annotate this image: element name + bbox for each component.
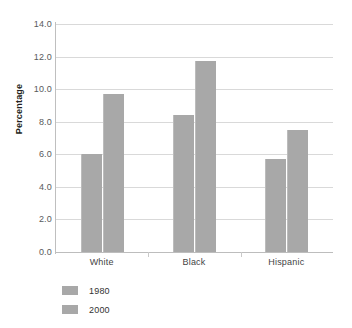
bar-white-2000 [103,94,124,252]
legend-item-1980[interactable]: 1980 [62,281,110,300]
bar-white-1980 [81,154,102,252]
y-tick-label: 0.0 [4,247,52,257]
bar-black-2000 [195,61,216,252]
bar-hispanic-2000 [287,130,308,252]
legend-swatch-icon [62,286,78,295]
plot-area [56,24,333,252]
y-tick-label: 8.0 [4,117,52,127]
gridline [56,252,333,253]
y-tick-label: 10.0 [4,84,52,94]
legend-swatch-icon [62,305,78,314]
bar-group-hispanic [265,24,308,252]
legend-label: 1980 [89,286,110,296]
bar-group-white [81,24,124,252]
bar-black-1980 [173,115,194,252]
x-axis-label-hispanic: Hispanic [241,257,331,267]
y-tick-label: 12.0 [4,52,52,62]
y-tick-label: 14.0 [4,19,52,29]
legend-item-2000[interactable]: 2000 [62,300,110,319]
chart-legend: 19802000 [62,281,110,319]
y-tick-label: 2.0 [4,214,52,224]
y-tick-label: 6.0 [4,149,52,159]
bar-hispanic-1980 [265,159,286,252]
x-axis-label-white: White [57,257,147,267]
y-axis-tick-labels: 0.02.04.06.08.010.012.014.0 [0,24,52,252]
y-tick-label: 4.0 [4,182,52,192]
bar-group-black [173,24,216,252]
bar-chart: Percentage 0.02.04.06.08.010.012.014.0 W… [0,0,352,328]
legend-label: 2000 [89,305,110,315]
x-axis-label-black: Black [149,257,239,267]
